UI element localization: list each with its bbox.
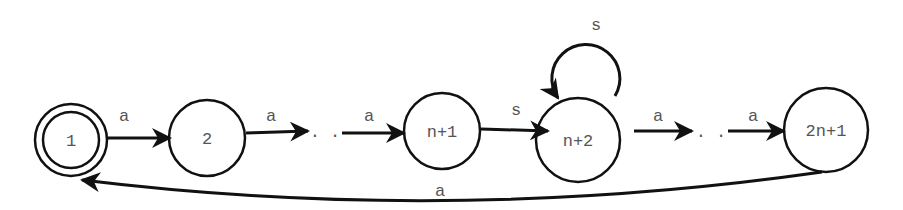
state-label: 1: [66, 132, 76, 151]
self-loop-s: s: [552, 16, 620, 98]
transition-arrow: [246, 131, 308, 133]
ellipsis-dots: . .: [310, 123, 341, 142]
transition-label: a: [364, 107, 374, 126]
transition-e2: a: [246, 107, 308, 133]
back-transition-a: a: [82, 172, 822, 201]
transition-e6: a: [728, 107, 784, 131]
transition-arrow: [481, 129, 548, 131]
self-loop-label: s: [591, 16, 601, 35]
automaton-diagram: 12n+1n+22n+1 aaasaa . .. .sa: [0, 0, 903, 210]
states-layer: 12n+1n+22n+1: [35, 88, 868, 182]
transition-label: a: [748, 107, 758, 126]
state-node-2nplus1: 2n+1: [784, 88, 868, 172]
diagram-svg: 12n+1n+22n+1 aaasaa . .. .sa: [0, 0, 903, 210]
state-label: 2: [202, 130, 212, 149]
state-label: n+1: [427, 123, 458, 142]
transition-label: s: [511, 101, 521, 120]
state-node-nplus2: n+2: [536, 98, 620, 182]
back-transition-label: a: [435, 182, 445, 201]
transition-e1: a: [107, 107, 170, 138]
transition-label: a: [119, 107, 129, 126]
transition-e3: a: [342, 107, 404, 133]
state-label: n+2: [563, 132, 594, 151]
transition-e5: a: [634, 107, 692, 131]
state-node-1: 1: [35, 104, 107, 176]
back-transition-arrow: [82, 172, 822, 201]
state-label: 2n+1: [806, 122, 847, 141]
transition-label: a: [653, 107, 663, 126]
state-node-2: 2: [169, 100, 245, 176]
state-node-nplus1: n+1: [404, 93, 480, 169]
transition-label: a: [266, 107, 276, 126]
ellipsis-dots: . .: [696, 123, 727, 142]
self-loop-arrow: [552, 44, 620, 98]
